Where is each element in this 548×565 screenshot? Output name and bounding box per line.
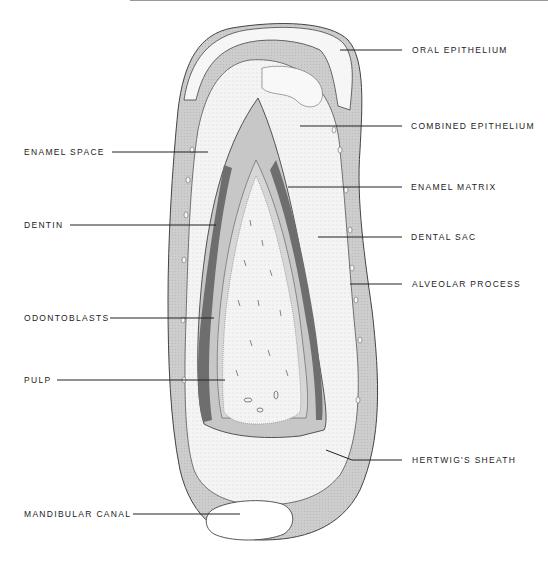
label-oral-epithelium: ORAL EPITHELIUM	[412, 45, 508, 55]
label-dentin: DENTIN	[24, 220, 63, 230]
label-dental-sac: DENTAL SAC	[411, 232, 476, 242]
label-enamel-matrix: ENAMEL MATRIX	[411, 182, 496, 192]
label-pulp: PULP	[24, 375, 51, 385]
label-odontoblasts: ODONTOBLASTS	[24, 313, 109, 323]
label-combined-epithelium: COMBINED EPITHELIUM	[411, 121, 535, 131]
label-alveolar-process: ALVEOLAR PROCESS	[412, 279, 521, 289]
label-enamel-space: ENAMEL SPACE	[24, 147, 105, 157]
label-mandibular-canal: MANDIBULAR CANAL	[24, 509, 131, 519]
mandibular-canal-shape	[206, 501, 293, 540]
label-hertwigs-sheath: HERTWIG'S SHEATH	[412, 455, 516, 465]
